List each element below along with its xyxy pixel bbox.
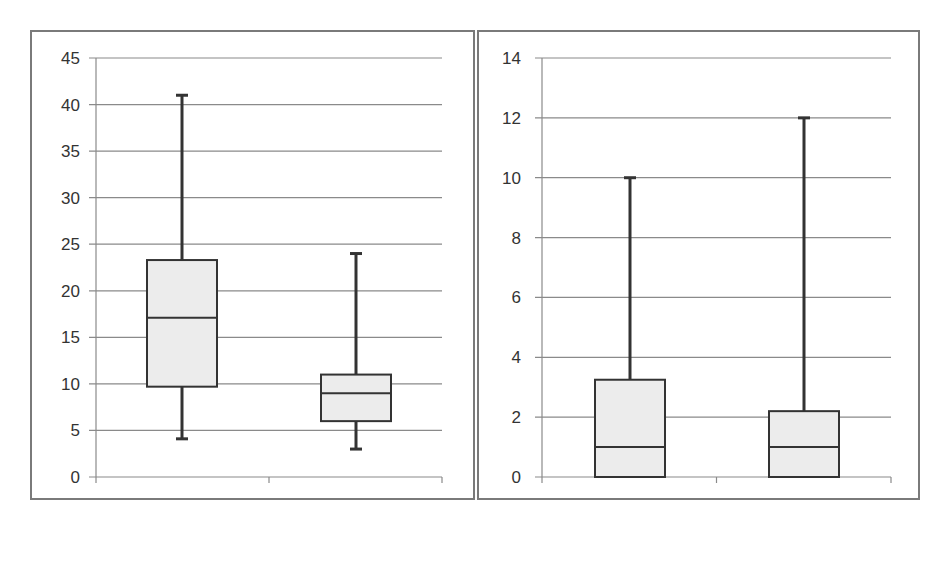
y-tick-label: 14 <box>502 49 521 68</box>
y-tick-label: 10 <box>502 169 521 188</box>
y-tick-label: 4 <box>512 348 521 367</box>
x-category-label: Face <box>336 500 376 502</box>
left-chart-panel: 051015202530354045TeapotFace <box>30 30 475 500</box>
y-tick-label: 0 <box>512 468 521 487</box>
box-teapot <box>595 178 665 477</box>
y-tick-label: 12 <box>502 109 521 128</box>
box-teapot <box>147 95 217 439</box>
box-face <box>321 254 391 450</box>
y-tick-label: 25 <box>61 235 80 254</box>
y-tick-label: 40 <box>61 96 80 115</box>
y-tick-label: 15 <box>61 328 80 347</box>
right-box-plot: 02468101214TeapotFace <box>479 32 922 502</box>
y-tick-label: 20 <box>61 282 80 301</box>
y-tick-label: 10 <box>61 375 80 394</box>
y-tick-label: 8 <box>512 229 521 248</box>
left-box-plot: 051015202530354045TeapotFace <box>32 32 477 502</box>
x-category-label: Teapot <box>603 500 657 502</box>
y-tick-label: 0 <box>71 468 80 487</box>
y-tick-label: 30 <box>61 189 80 208</box>
y-tick-label: 5 <box>71 421 80 440</box>
y-tick-label: 2 <box>512 408 521 427</box>
x-category-label: Face <box>784 500 824 502</box>
y-tick-label: 45 <box>61 49 80 68</box>
right-chart-panel: 02468101214TeapotFace <box>477 30 920 500</box>
y-tick-label: 6 <box>512 288 521 307</box>
y-tick-label: 35 <box>61 142 80 161</box>
x-category-label: Teapot <box>155 500 209 502</box>
